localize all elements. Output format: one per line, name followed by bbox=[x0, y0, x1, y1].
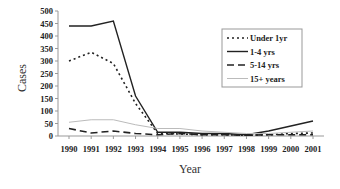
x-tick-label: 1993 bbox=[127, 144, 144, 154]
x-tick-label: 1990 bbox=[61, 144, 78, 154]
x-tick-label: 1999 bbox=[260, 144, 277, 154]
legend: Under 1yr1-4 yrs5-14 yrs15+ years bbox=[222, 29, 302, 87]
y-tick-label: 0 bbox=[49, 131, 53, 141]
x-tick-label: 1998 bbox=[238, 144, 255, 154]
y-axis: 050100150200250300350400450500 bbox=[40, 6, 58, 141]
x-tick-label: 1992 bbox=[105, 144, 122, 154]
legend-item: 5-14 yrs bbox=[250, 60, 280, 70]
x-tick-label: 1996 bbox=[194, 144, 211, 154]
x-tick-label: 1991 bbox=[83, 144, 100, 154]
x-tick-label: 1995 bbox=[171, 144, 188, 154]
y-tick-label: 100 bbox=[40, 106, 53, 116]
y-tick-label: 50 bbox=[45, 119, 54, 129]
y-tick-label: 500 bbox=[40, 6, 53, 16]
y-tick-label: 250 bbox=[40, 69, 53, 79]
x-tick-label: 2000 bbox=[282, 144, 299, 154]
x-axis: 1990199119921993199419951996199719981999… bbox=[61, 136, 322, 154]
legend-item: 1-4 yrs bbox=[250, 47, 275, 57]
y-tick-label: 450 bbox=[40, 19, 53, 29]
x-axis-label: Year bbox=[179, 162, 201, 176]
y-tick-label: 200 bbox=[40, 81, 53, 91]
y-tick-label: 150 bbox=[40, 94, 53, 104]
y-tick-label: 300 bbox=[40, 56, 53, 66]
y-axis-label: Cases bbox=[15, 64, 29, 92]
y-tick-label: 400 bbox=[40, 31, 53, 41]
y-tick-label: 350 bbox=[40, 44, 53, 54]
legend-item: 15+ years bbox=[250, 74, 286, 84]
line-chart: 050100150200250300350400450500 199019911… bbox=[0, 0, 340, 189]
x-tick-label: 1994 bbox=[149, 144, 167, 154]
x-tick-label: 2001 bbox=[305, 144, 322, 154]
x-tick-label: 1997 bbox=[216, 144, 234, 154]
legend-item: Under 1yr bbox=[250, 33, 288, 43]
